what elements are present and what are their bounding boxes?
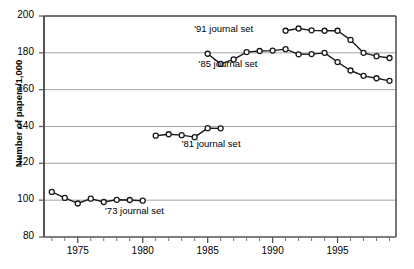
gridlines [44, 16, 396, 200]
series-label-3: '91 journal set [194, 23, 253, 34]
x-tick-label-1980: 1980 [123, 245, 163, 256]
series-label-0: '73 journal set [105, 205, 164, 216]
x-tick-label-1985: 1985 [188, 245, 228, 256]
y-tick-label-140: 140 [8, 120, 34, 131]
y-tick-label-200: 200 [8, 9, 34, 20]
papers-per-1000-line-chart: Number of papers/1,000 80100120140160180… [0, 0, 414, 269]
y-tick-label-180: 180 [8, 46, 34, 57]
x-tick-label-1975: 1975 [58, 245, 98, 256]
y-tick-label-100: 100 [8, 193, 34, 204]
series-label-2: '85 journal set [199, 58, 258, 69]
y-tick-label-160: 160 [8, 83, 34, 94]
axis-ticks [39, 16, 390, 243]
series-label-1: '81 journal set [182, 138, 241, 149]
y-tick-label-80: 80 [8, 230, 34, 241]
plot-area [0, 0, 414, 269]
x-tick-label-1995: 1995 [318, 245, 358, 256]
series-0 [49, 189, 145, 206]
x-tick-label-1990: 1990 [253, 245, 293, 256]
y-tick-label-120: 120 [8, 156, 34, 167]
